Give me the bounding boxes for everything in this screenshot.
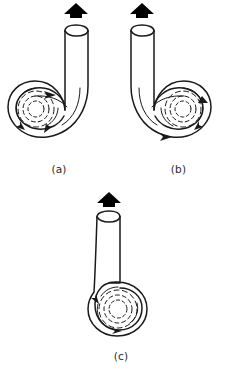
diagram-panel-c bbox=[58, 192, 184, 348]
outlet-flow-up-arrow-icon-a bbox=[64, 3, 88, 18]
diagram-panel-b bbox=[118, 0, 239, 160]
outlet-flow-up-arrow-icon-b bbox=[130, 3, 154, 18]
internal-flow-arrowhead-1-b bbox=[160, 133, 172, 141]
vortex-dashed-circle-middle-c bbox=[104, 295, 132, 323]
tube-opening-back-b bbox=[131, 25, 154, 31]
spiral-flow-arc-1-b bbox=[183, 88, 201, 100]
spiral-tube-diagram-a bbox=[0, 0, 118, 160]
panel-label-a: (a) bbox=[0, 163, 118, 175]
spiral-flow-arc-1-a bbox=[18, 88, 36, 100]
vortex-dashed-circle-inner-b bbox=[175, 101, 191, 117]
vortex-dashed-circle-middle-a bbox=[23, 96, 49, 122]
vortex-dashed-circle-middle-b bbox=[170, 96, 196, 122]
spiral-tube-diagram-c bbox=[58, 192, 184, 348]
tube-opening-back-c bbox=[97, 211, 120, 217]
vortex-dashed-circle-inner-a bbox=[28, 101, 44, 117]
vortex-dashed-circle-inner-c bbox=[109, 300, 127, 318]
spiral-tube-diagram-b bbox=[118, 0, 239, 160]
tube-opening-front-a bbox=[65, 31, 88, 36]
panel-label-c: (c) bbox=[58, 350, 184, 362]
tube-opening-front-b bbox=[131, 31, 154, 36]
tube-opening-back-a bbox=[65, 25, 88, 31]
internal-flow-arrowhead-2-c bbox=[112, 328, 122, 334]
panel-label-b: (b) bbox=[118, 163, 239, 175]
figure-root: (a) bbox=[0, 0, 239, 376]
tube-opening-front-c bbox=[97, 217, 120, 222]
outlet-flow-up-arrow-icon-c bbox=[97, 192, 121, 207]
diagram-panel-a bbox=[0, 0, 118, 160]
internal-flow-arrowhead-3-a bbox=[44, 124, 52, 133]
